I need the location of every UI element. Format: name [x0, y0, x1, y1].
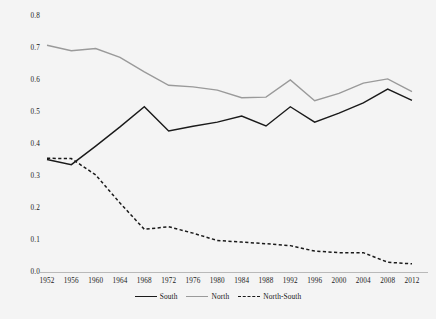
- chart-plot-area: [0, 0, 436, 319]
- y-tick-label: 0.0: [14, 268, 40, 276]
- y-tick-label: 0.8: [14, 12, 40, 20]
- legend-label: North: [211, 292, 229, 301]
- line-chart: 0.00.10.20.30.40.50.60.70.8 195219561960…: [0, 0, 436, 319]
- series-layer: [47, 45, 412, 264]
- legend-swatch-icon: [186, 293, 208, 300]
- y-tick-label: 0.3: [14, 172, 40, 180]
- y-tick-label: 0.6: [14, 76, 40, 84]
- legend-swatch-icon: [238, 293, 260, 300]
- y-tick-label: 0.4: [14, 140, 40, 148]
- legend-item-north-south[interactable]: North-South: [238, 292, 301, 301]
- series-line-north: [47, 45, 412, 100]
- legend-item-south[interactable]: South: [135, 292, 178, 301]
- legend-label: North-South: [263, 292, 301, 301]
- y-tick-label: 0.2: [14, 204, 40, 212]
- legend-swatch-icon: [135, 293, 157, 300]
- legend-item-north[interactable]: North: [186, 292, 229, 301]
- y-tick-label: 0.1: [14, 236, 40, 244]
- chart-legend: SouthNorthNorth-South: [0, 292, 436, 301]
- legend-label: South: [160, 292, 178, 301]
- series-line-north-south: [47, 158, 412, 264]
- series-line-south: [47, 89, 412, 165]
- x-tick-label: 2012: [397, 277, 427, 285]
- y-tick-label: 0.5: [14, 108, 40, 116]
- y-tick-label: 0.7: [14, 44, 40, 52]
